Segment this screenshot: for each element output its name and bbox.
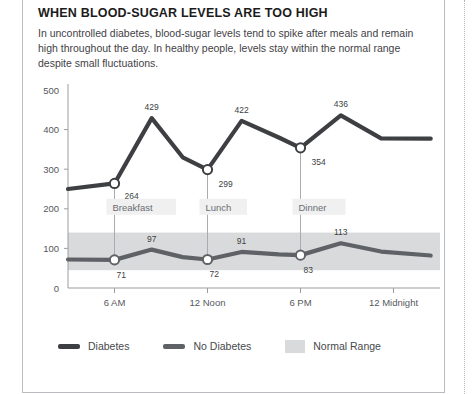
y-axis-tick-label: 400 (43, 124, 59, 135)
y-axis-tick-label: 200 (43, 203, 59, 214)
meal-label-breakfast: Breakfast (113, 202, 153, 213)
y-axis-tick-label: 500 (43, 85, 59, 96)
x-axis-tick-label: 12 Midnight (369, 297, 418, 308)
data-value-label: 422 (235, 105, 249, 115)
data-point-marker (110, 179, 119, 188)
legend-label: Normal Range (313, 340, 381, 352)
data-value-label: 436 (334, 99, 348, 109)
card-header: WHEN BLOOD-SUGAR LEVELS ARE TOO HIGH In … (38, 6, 428, 72)
page-root: WHEN BLOOD-SUGAR LEVELS ARE TOO HIGH In … (0, 0, 475, 394)
y-axis-tick-label: 100 (43, 243, 59, 254)
data-value-label: 72 (210, 269, 220, 279)
y-axis-tick-label: 300 (43, 164, 59, 175)
x-axis: 6 AM12 Noon6 PM12 Midnight (68, 288, 440, 308)
data-value-label: 429 (145, 102, 159, 112)
y-axis-tick-label: 0 (54, 283, 59, 294)
legend-box-swatch (285, 340, 305, 353)
data-value-label: 71 (117, 270, 127, 280)
meal-label-dinner: Dinner (299, 202, 327, 213)
meal-labels: BreakfastLunchDinner (107, 199, 346, 215)
legend-item-no-diabetes[interactable]: No Diabetes (163, 340, 251, 352)
data-point-marker (110, 255, 119, 264)
page-title: WHEN BLOOD-SUGAR LEVELS ARE TOO HIGH (38, 6, 428, 20)
data-value-label: 354 (312, 157, 326, 167)
legend-line-swatch (163, 344, 185, 349)
page-cut-guide (464, 0, 465, 394)
data-value-label: 83 (304, 265, 314, 275)
blood-sugar-line-chart: 0100200300400500 6 AM12 Noon6 PM12 Midni… (26, 76, 446, 332)
chart-legend: DiabetesNo DiabetesNormal Range (40, 336, 430, 356)
data-value-label: 299 (219, 179, 233, 189)
legend-label: Diabetes (88, 340, 129, 352)
legend-line-swatch (58, 344, 80, 349)
series-line-diabetes (68, 115, 431, 189)
data-point-marker (296, 143, 305, 152)
data-value-label: 91 (237, 236, 247, 246)
meal-label-lunch: Lunch (206, 202, 232, 213)
data-point-marker (203, 255, 212, 264)
x-axis-tick-label: 12 Noon (190, 297, 226, 308)
data-point-marker (296, 251, 305, 260)
legend-item-normal-range[interactable]: Normal Range (285, 340, 381, 353)
legend-item-diabetes[interactable]: Diabetes (58, 340, 129, 352)
chart-plot-area: 0100200300400500 6 AM12 Noon6 PM12 Midni… (26, 76, 446, 332)
data-point-marker (203, 165, 212, 174)
y-axis: 0100200300400500 (43, 84, 68, 294)
card-description: In uncontrolled diabetes, blood-sugar le… (38, 26, 428, 72)
data-value-label: 97 (147, 234, 157, 244)
legend-label: No Diabetes (193, 340, 251, 352)
data-value-label: 113 (334, 227, 348, 237)
x-axis-tick-label: 6 PM (289, 297, 311, 308)
x-axis-tick-label: 6 AM (104, 297, 126, 308)
